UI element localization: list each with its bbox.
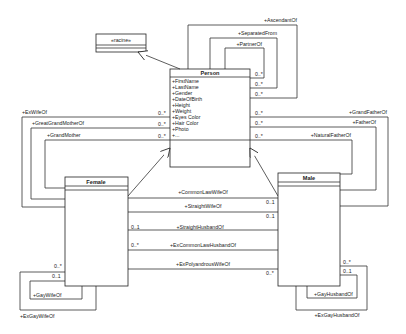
class-person[interactable]: Person +FirstName +LastName +Gender +Dat… (170, 69, 250, 167)
mult-separated-from: 0..* (255, 81, 263, 87)
class-male-name: Male (303, 175, 315, 181)
person-attr: +... (172, 132, 179, 138)
female-male-associations: +CommonLawWifeOf 0..1 +StraightWifeOf 0.… (128, 189, 278, 276)
role-gay-wife-of: +GayWifeOf (33, 292, 62, 298)
uml-diagram-canvas: «racine» +AscendantOf 0..* +SeparatedFro… (0, 0, 406, 334)
mult-ex-polyandrous-wife-of: 0..* (266, 270, 274, 276)
mult-ex-gay-husband-of: 0..* (343, 259, 351, 265)
generalization-male-person (250, 148, 278, 196)
generalization-person-racine (138, 52, 180, 69)
class-male[interactable]: Male (278, 173, 340, 286)
class-racine[interactable]: «racine» (96, 34, 146, 52)
mult-grandfather-of: 0..* (255, 110, 263, 116)
role-ex-polyandrous-wife-of: +ExPolyandrousWifeOf (176, 261, 230, 267)
role-ex-gay-wife-of: +ExGayWifeOf (20, 313, 55, 319)
class-person-name: Person (201, 70, 221, 76)
mult-gay-husband-of: 0..1 (343, 268, 352, 274)
role-ex-common-law-husband-of: +ExCommonLawHusbandOf (170, 242, 236, 248)
mult-straight-husband-of: 0..1 (131, 224, 140, 230)
mult-gay-wife-of: 0..1 (52, 273, 61, 279)
role-grandfather-of: +GrandFatherOf (349, 109, 387, 115)
mult-common-law-wife-of: 0..1 (266, 199, 275, 205)
mult-father-of: 0..* (255, 120, 263, 126)
generalization-female-person (128, 148, 170, 196)
mult-ex-common-law-husband-of: 0..* (131, 242, 139, 248)
role-ex-wife-of: +ExWifeOf (22, 109, 47, 115)
role-straight-husband-of: +StraightHusbandOf (176, 224, 224, 230)
role-common-law-wife-of: +CommonLawWifeOf (178, 189, 228, 195)
role-natural-father-of: +NaturalFatherOf (311, 132, 352, 138)
mult-straight-wife-of: 0..1 (266, 213, 275, 219)
class-female[interactable]: Female (65, 177, 128, 286)
role-grandmother: +GrandMother (47, 132, 81, 138)
mult-ex-wife-of: 0..* (158, 110, 166, 116)
role-father-of: +FatherOf (353, 119, 377, 125)
role-separated-from: +SeparatedFrom (238, 30, 277, 36)
mult-ascendant-of: 0..* (255, 91, 263, 97)
role-partner-of: +PartnerOf (236, 41, 262, 47)
role-ex-gay-husband-of: +ExGayHusbandOf (315, 312, 360, 318)
role-gay-husband-of: +GayHusbandOf (314, 291, 353, 297)
role-ascendant-of: +AscendantOf (264, 17, 298, 23)
mult-great-grandmother-of: 0..* (158, 121, 166, 127)
class-racine-name: «racine» (111, 37, 131, 43)
mult-natural-father-of: 0..* (255, 133, 263, 139)
mult-grandmother: 0..* (158, 133, 166, 139)
role-straight-wife-of: +StraightWifeOf (185, 203, 222, 209)
class-female-name: Female (86, 179, 105, 185)
role-great-grandmother-of: +GreatGrandMotherOf (32, 120, 85, 126)
mult-ex-gay-wife-of-label: 0..* (54, 263, 62, 269)
mult-partner-of: 0..* (255, 71, 263, 77)
